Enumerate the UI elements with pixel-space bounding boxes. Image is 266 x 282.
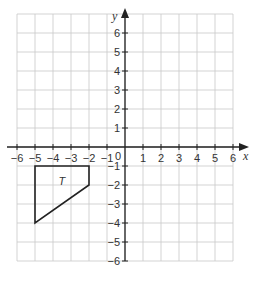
x-tick-label: 3 — [176, 152, 182, 164]
x-tick-label: −2 — [83, 152, 96, 164]
y-tick-label: −6 — [107, 255, 120, 267]
y-tick-label: −4 — [107, 217, 120, 229]
x-tick-label: −4 — [47, 152, 60, 164]
x-tick-label: −3 — [65, 152, 78, 164]
y-tick-label: −2 — [107, 179, 120, 191]
y-tick-label: 4 — [114, 65, 120, 77]
coordinate-grid: −6−5−4−3−2−1123456654321−1−2−3−4−5−60 T … — [0, 0, 266, 282]
x-tick-label: 4 — [194, 152, 200, 164]
x-axis-label: x — [242, 149, 249, 163]
x-tick-label: 2 — [158, 152, 164, 164]
x-tick-label: 1 — [140, 152, 146, 164]
y-tick-label: −5 — [107, 236, 120, 248]
x-tick-label: 6 — [230, 152, 236, 164]
x-tick-label: 5 — [212, 152, 218, 164]
y-tick-label: 3 — [114, 84, 120, 96]
y-tick-label: 6 — [114, 27, 120, 39]
x-tick-label: −6 — [11, 152, 24, 164]
y-tick-label: 2 — [114, 103, 120, 115]
y-tick-label: 5 — [114, 46, 120, 58]
y-tick-label: 1 — [114, 122, 120, 134]
y-axis-arrow-icon — [121, 8, 129, 18]
y-axis-label: y — [111, 9, 118, 23]
svg-text:0: 0 — [115, 150, 121, 162]
y-tick-label: −3 — [107, 198, 120, 210]
x-tick-label: −5 — [29, 152, 42, 164]
